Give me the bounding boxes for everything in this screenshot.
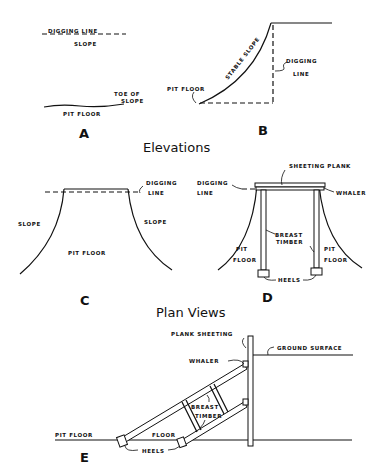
- label-toe-of: TOE OF: [114, 91, 140, 97]
- label-digging: DIGGING: [286, 58, 317, 64]
- label-floor-right: FLOOR: [324, 257, 348, 263]
- label-pit-left: PIT: [236, 246, 248, 252]
- label-breast: BREAST: [275, 232, 303, 238]
- breast-timber-right: [314, 190, 319, 268]
- section-title-plan-views: Plan Views: [156, 305, 226, 320]
- label-timber: TIMBER: [195, 413, 222, 419]
- digging-leader: [232, 185, 242, 189]
- label-line: LINE: [148, 190, 164, 196]
- label-pit-floor: PIT FLOOR: [55, 432, 93, 438]
- label-pit-floor: PIT FLOOR: [68, 250, 106, 256]
- panel-b: STABLE SLOPE DIGGING LINE PIT FLOOR B: [167, 23, 332, 138]
- panel-e: PLANK SHEETING GROUND SURFACE WHALER BRE…: [55, 331, 353, 465]
- label-slope: SLOPE: [74, 41, 97, 47]
- shoring-diagram: DIGGING LINE SLOPE TOE OF SLOPE PIT FLOO…: [0, 0, 386, 472]
- label-plank-sheeting: PLANK SHEETING: [171, 331, 233, 337]
- label-slope-left: SLOPE: [18, 221, 41, 227]
- panel-letter-e: E: [80, 450, 89, 465]
- digging-line-leader: [139, 186, 143, 193]
- ground-surface-leader: [268, 347, 274, 355]
- label-toe-slope: SLOPE: [121, 98, 144, 104]
- panel-letter-d: D: [262, 290, 273, 305]
- label-heels: HEELS: [142, 448, 165, 454]
- label-line: LINE: [197, 190, 213, 196]
- breast-timber-left: [261, 190, 266, 270]
- heel-right: [311, 268, 322, 275]
- panel-letter-b: B: [258, 123, 268, 138]
- right-slope-curve: [128, 189, 172, 270]
- label-digging: DIGGING: [146, 180, 177, 186]
- label-slope-right: SLOPE: [144, 219, 167, 225]
- label-floor-left: FLOOR: [233, 257, 257, 263]
- panel-c: DIGGING LINE SLOPE SLOPE PIT FLOOR C: [18, 180, 177, 308]
- pit-floor-line: [44, 104, 124, 107]
- heels-leader-left: [125, 446, 138, 451]
- label-whaler: WHALER: [336, 190, 366, 196]
- sheeting-plank: [255, 183, 325, 187]
- breast-leader-upper: [207, 395, 209, 402]
- whaler-leader: [324, 188, 334, 192]
- heels-leader-right: [303, 275, 316, 280]
- whaler-leader: [228, 360, 244, 364]
- label-pit-right: PIT: [324, 246, 336, 252]
- breast-leader-right: [310, 246, 314, 252]
- plank-sheeting-leader: [242, 338, 246, 348]
- heel-left: [258, 270, 269, 277]
- whaler-block-lower: [243, 399, 248, 405]
- breast-leader-left: [266, 230, 275, 234]
- pit-floor-leader: [192, 92, 196, 103]
- right-slope-curve: [319, 185, 362, 268]
- label-digging-line: DIGGING LINE: [48, 28, 98, 34]
- left-slope-curve: [20, 189, 64, 274]
- label-whaler: WHALER: [189, 358, 219, 364]
- label-floor: FLOOR: [152, 432, 176, 438]
- breast-timber-upper: [121, 364, 247, 443]
- section-title-elevations: Elevations: [143, 140, 210, 155]
- label-heels: HEELS: [278, 277, 301, 283]
- panel-letter-c: C: [80, 293, 90, 308]
- heels-leader-right: [168, 446, 180, 450]
- label-digging: DIGGING: [197, 180, 228, 186]
- panel-d: SHEETING PLANK DIGGING LINE WHALER BREAS…: [197, 163, 366, 305]
- plank-sheeting: [248, 336, 253, 446]
- label-breast: BREAST: [191, 404, 219, 410]
- label-timber: TIMBER: [276, 239, 303, 245]
- panel-letter-a: A: [79, 126, 89, 141]
- label-line: LINE: [293, 71, 309, 77]
- label-ground-surface: GROUND SURFACE: [277, 345, 342, 351]
- panel-a: DIGGING LINE SLOPE TOE OF SLOPE PIT FLOO…: [42, 28, 144, 141]
- label-pit-floor: PIT FLOOR: [167, 86, 205, 92]
- label-pit-floor: PIT FLOOR: [63, 111, 101, 117]
- label-sheeting-plank: SHEETING PLANK: [289, 163, 351, 169]
